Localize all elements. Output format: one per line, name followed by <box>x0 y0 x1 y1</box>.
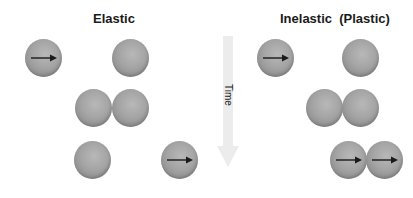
velocity-arrow-icon <box>372 156 398 164</box>
velocity-arrow-icon <box>31 54 57 62</box>
inelastic-ball-collision <box>306 89 343 127</box>
velocity-arrow-icon <box>263 54 289 62</box>
inelastic-ball-before <box>257 39 294 77</box>
elastic-ball-after <box>161 141 198 179</box>
inelastic-ball-after <box>366 141 403 179</box>
velocity-arrow-icon <box>336 156 362 164</box>
elastic-ball-after <box>74 141 111 179</box>
velocity-arrow-icon <box>167 156 193 164</box>
elastic-ball-before <box>25 39 62 77</box>
elastic-ball-collision <box>75 89 112 127</box>
inelastic-title: Inelastic (Plastic) <box>280 11 390 27</box>
inelastic-ball-collision <box>342 89 379 127</box>
inelastic-ball-after <box>330 141 367 179</box>
elastic-ball-before <box>112 39 149 77</box>
time-label: Time <box>213 81 243 109</box>
elastic-ball-collision <box>112 89 149 127</box>
elastic-title: Elastic <box>93 11 135 27</box>
inelastic-ball-before <box>342 39 379 77</box>
